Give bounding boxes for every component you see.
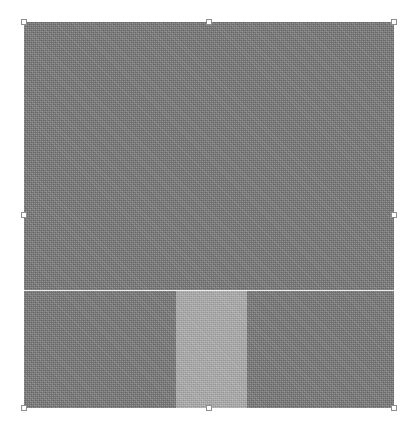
resize-handle-sw[interactable]: [21, 405, 27, 411]
resize-handle-se[interactable]: [391, 405, 397, 411]
resize-handle-ne[interactable]: [391, 19, 397, 25]
resize-handle-w[interactable]: [21, 212, 27, 218]
resize-handle-n[interactable]: [206, 19, 212, 25]
resize-handle-nw[interactable]: [21, 19, 27, 25]
resize-handle-e[interactable]: [391, 212, 397, 218]
nested-light-panel[interactable]: [176, 291, 247, 408]
selected-object[interactable]: [24, 22, 394, 408]
design-canvas[interactable]: [0, 0, 416, 432]
object-upper-band[interactable]: [24, 22, 394, 290]
resize-handle-s[interactable]: [206, 405, 212, 411]
